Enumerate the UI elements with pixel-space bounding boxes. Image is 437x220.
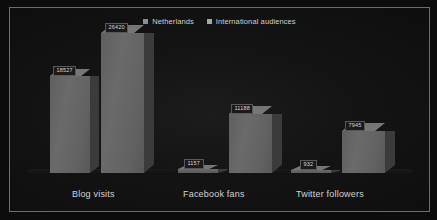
bar-twitter-followers-netherlands[interactable]: [291, 170, 331, 173]
bar-side-face: [144, 33, 154, 173]
chart-legend: Netherlands International audiences: [10, 17, 429, 26]
bar-blog-visits-netherlands[interactable]: [50, 76, 90, 173]
bar-side-face: [272, 114, 282, 173]
legend-label-netherlands: Netherlands: [152, 17, 194, 26]
bar-blog-visits-international[interactable]: [101, 33, 144, 173]
bar-group-blog-visits: 18527 26420: [50, 33, 170, 173]
bar-facebook-fans-international[interactable]: [229, 114, 272, 173]
bar-front-face: [50, 76, 90, 173]
category-label-facebook-fans: Facebook fans: [183, 189, 245, 199]
chart-root: Netherlands International audiences 1852…: [0, 0, 437, 220]
bar-side-face: [90, 76, 99, 173]
bar-group-facebook-fans: 1157 11188: [178, 111, 298, 173]
category-label-twitter-followers: Twitter followers: [296, 189, 364, 199]
bar-front-face: [101, 33, 144, 173]
bar-twitter-followers-international[interactable]: [342, 131, 385, 173]
data-label-twitter-followers-netherlands: 932: [300, 160, 317, 171]
category-label-blog-visits: Blog visits: [72, 189, 115, 199]
plot-area: 18527 26420 1157: [10, 8, 429, 211]
legend-item-international-audiences[interactable]: International audiences: [207, 17, 296, 26]
bar-front-face: [229, 114, 272, 173]
chart-frame: Netherlands International audiences 1852…: [9, 7, 430, 212]
legend-swatch-netherlands-icon: [143, 19, 148, 24]
bar-facebook-fans-netherlands[interactable]: [178, 169, 218, 173]
legend-label-international-audiences: International audiences: [216, 17, 296, 26]
bar-front-face: [178, 169, 218, 173]
bar-side-face: [218, 169, 227, 173]
bar-side-face: [385, 131, 395, 173]
bar-front-face: [342, 131, 385, 173]
legend-swatch-international-icon: [207, 19, 212, 24]
data-label-blog-visits-netherlands: 18527: [53, 66, 76, 77]
data-label-facebook-fans-netherlands: 1157: [184, 159, 204, 170]
data-label-facebook-fans-international: 11188: [231, 104, 253, 115]
bar-side-face: [331, 170, 340, 173]
bar-group-twitter-followers: 932 7945: [291, 128, 411, 173]
legend-item-netherlands[interactable]: Netherlands: [143, 17, 194, 26]
data-label-twitter-followers-international: 7945: [345, 121, 365, 132]
bar-front-face: [291, 170, 331, 173]
